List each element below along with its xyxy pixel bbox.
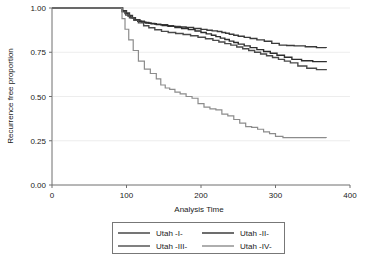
x-axis-label: Analysis Time: [174, 205, 224, 214]
legend: Utah -I-Utah -II-Utah -III-Utah -IV-: [113, 223, 285, 254]
legend-label-3: Utah -III-: [156, 242, 187, 251]
y-tick-label: 1.00: [30, 4, 46, 13]
legend-label-2: Utah -II-: [240, 229, 269, 238]
legend-label-4: Utah -IV-: [240, 242, 272, 251]
x-tick-label: 300: [269, 191, 283, 200]
x-axis-ticks: 0100200300400: [50, 185, 357, 200]
y-tick-label: 0.25: [30, 137, 46, 146]
series-line-utah-iii: [52, 8, 326, 70]
y-tick-label: 0.00: [30, 181, 46, 190]
x-tick-label: 400: [343, 191, 357, 200]
y-tick-label: 0.75: [30, 48, 46, 57]
x-tick-label: 200: [194, 191, 208, 200]
data-series-group: [52, 8, 326, 138]
y-axis-label: Recurrence free proportion: [6, 48, 15, 144]
y-tick-label: 0.50: [30, 93, 46, 102]
y-axis-ticks: 0.000.250.500.751.00: [30, 4, 52, 190]
legend-label-1: Utah -I-: [156, 229, 183, 238]
kaplan-meier-plot: 0.000.250.500.751.00 0100200300400 Recur…: [0, 0, 366, 261]
x-tick-label: 100: [120, 191, 134, 200]
recurrence-free-survival-chart: 0.000.250.500.751.00 0100200300400 Recur…: [0, 0, 366, 261]
x-tick-label: 0: [50, 191, 55, 200]
series-line-utah-i: [52, 8, 326, 48]
legend-items: Utah -I-Utah -II-Utah -III-Utah -IV-: [118, 229, 272, 251]
